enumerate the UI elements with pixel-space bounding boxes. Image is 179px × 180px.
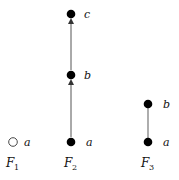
node-f2-c xyxy=(67,10,76,19)
frames-diagram: a F 1 a b c F 2 a b F 3 xyxy=(0,0,179,180)
node-label-f3-a: a xyxy=(163,136,170,149)
node-f2-b xyxy=(67,71,76,80)
frame-f1: a F 1 xyxy=(5,136,31,172)
node-f1-a xyxy=(9,138,18,147)
node-f3-a xyxy=(144,138,153,147)
node-f3-b xyxy=(144,100,153,109)
node-label-f3-b: b xyxy=(163,98,170,111)
node-label-f1-a: a xyxy=(24,136,31,149)
node-f2-a xyxy=(67,138,76,147)
frame-subscript-f1: 1 xyxy=(14,163,19,172)
node-label-f2-c: c xyxy=(84,8,90,21)
frame-subscript-f3: 3 xyxy=(149,163,154,172)
frame-subscript-f2: 2 xyxy=(72,163,77,172)
frame-f2: a b c F 2 xyxy=(63,8,93,172)
node-label-f2-a: a xyxy=(86,136,93,149)
frame-f3: a b F 3 xyxy=(140,98,170,172)
node-label-f2-b: b xyxy=(84,69,91,82)
